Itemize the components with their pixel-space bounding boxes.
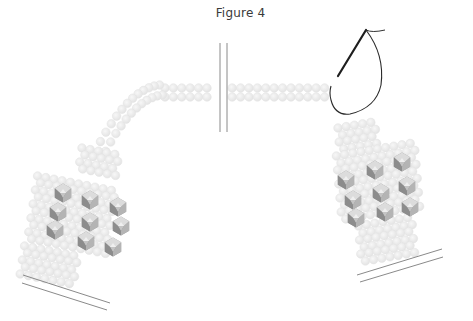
- bead: [178, 93, 187, 102]
- bead: [278, 93, 287, 102]
- bead: [102, 128, 111, 137]
- beading-illustration: [0, 0, 473, 321]
- thread-loop: [330, 30, 382, 114]
- bead: [186, 93, 195, 102]
- bead: [107, 120, 116, 129]
- bead: [270, 84, 279, 93]
- bead: [262, 84, 271, 93]
- bead: [93, 248, 102, 257]
- bead: [52, 240, 61, 249]
- bead: [203, 93, 212, 102]
- bead: [103, 170, 112, 179]
- bead: [169, 84, 178, 93]
- crystal-icon: [113, 217, 129, 236]
- needle-icon: [338, 30, 366, 76]
- bead: [27, 235, 36, 244]
- bead: [320, 84, 329, 93]
- bead: [287, 93, 296, 102]
- bead: [178, 84, 187, 93]
- bead: [369, 255, 378, 264]
- break-marker: [220, 43, 227, 132]
- bead: [65, 279, 74, 288]
- left-bracelet-panel: [16, 144, 122, 288]
- bead: [111, 171, 120, 180]
- needle-and-thread: [330, 30, 385, 114]
- bead: [95, 168, 104, 177]
- bead: [57, 278, 66, 287]
- bead: [312, 84, 321, 93]
- bead: [96, 137, 105, 146]
- bead: [117, 122, 126, 131]
- bead: [386, 252, 395, 261]
- bead: [320, 93, 329, 102]
- bead: [44, 238, 53, 247]
- bead: [361, 257, 370, 266]
- bead: [295, 84, 304, 93]
- bead: [112, 129, 121, 138]
- bead: [304, 84, 313, 93]
- bead: [112, 112, 121, 121]
- bead: [410, 248, 419, 257]
- bead: [236, 84, 245, 93]
- bead: [312, 93, 321, 102]
- bead: [78, 165, 87, 174]
- bead: [36, 236, 45, 245]
- bead: [16, 270, 25, 279]
- bead: [236, 93, 245, 102]
- bead: [262, 93, 271, 102]
- upper-bead-strand: [96, 81, 329, 156]
- bead: [60, 241, 69, 250]
- bead: [304, 93, 313, 102]
- bead: [87, 166, 96, 175]
- bead: [366, 211, 375, 220]
- bead: [169, 93, 178, 102]
- bead: [186, 84, 195, 93]
- bead: [253, 93, 262, 102]
- bead: [106, 138, 115, 147]
- bead: [378, 254, 387, 263]
- bead: [270, 93, 279, 102]
- bead: [295, 93, 304, 102]
- bead: [253, 84, 262, 93]
- bead: [68, 243, 77, 252]
- bead: [228, 93, 237, 102]
- bead: [245, 84, 254, 93]
- bead: [203, 84, 212, 93]
- bead: [194, 93, 203, 102]
- bead: [287, 84, 296, 93]
- bead: [245, 93, 254, 102]
- bead: [394, 251, 403, 260]
- bead: [228, 84, 237, 93]
- bead: [194, 84, 203, 93]
- bead: [278, 84, 287, 93]
- bead: [402, 250, 411, 259]
